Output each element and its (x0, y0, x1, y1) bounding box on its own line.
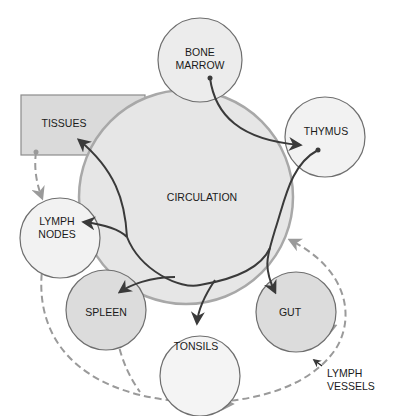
tonsils-label: TONSILS (174, 340, 219, 352)
lymph-nodes-label-line1: LYMPH (39, 215, 74, 227)
tissues-label: TISSUES (42, 117, 87, 129)
bone-marrow-label-line2: MARROW (176, 59, 225, 71)
lymph-nodes-label-line2: NODES (38, 228, 75, 240)
lymph-vessels-label-line1: LYMPH (327, 367, 362, 379)
spleen-label: SPLEEN (85, 306, 126, 318)
bone-marrow-label-line1: BONE (185, 46, 215, 58)
thymus-node (285, 97, 365, 177)
gut-label: GUT (279, 306, 302, 318)
circulation-label: CIRCULATION (167, 191, 237, 203)
lymph-vessels-label-line2: VESSELS (327, 380, 375, 392)
lymphoid-circulation-diagram: BONE MARROW THYMUS TISSUES CIRCULATION L… (0, 0, 393, 416)
thymus-label: THYMUS (304, 125, 348, 137)
